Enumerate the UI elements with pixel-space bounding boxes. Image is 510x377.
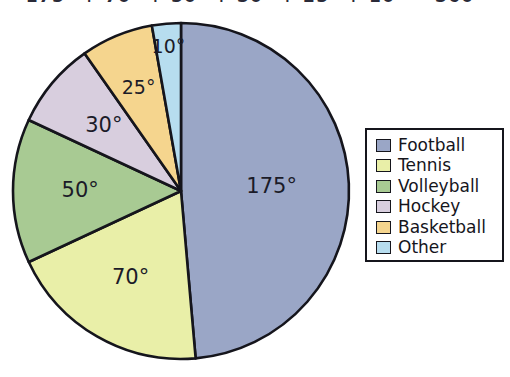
legend-swatch-hockey [376,200,391,213]
pie-slice-value-hockey: 30° [85,113,122,137]
pie-slice-value-other: 10° [152,35,186,57]
legend-item-hockey[interactable]: Hockey [376,197,502,218]
legend-label-football: Football [398,137,465,154]
pie-slice-value-tennis: 70° [112,265,149,289]
legend-swatch-other [376,241,391,254]
legend-item-basketball[interactable]: Basketball [376,217,502,238]
legend-swatch-tennis [376,159,391,172]
legend: FootballTennisVolleyballHockeyBasketball… [365,128,504,262]
pie-slice-value-basketball: 25° [122,76,156,98]
legend-item-volleyball[interactable]: Volleyball [376,176,502,197]
pie-svg: 175°70°50°30°25°10° [0,0,365,377]
legend-item-other[interactable]: Other [376,238,502,259]
legend-swatch-volleyball [376,180,391,193]
legend-label-basketball: Basketball [398,219,486,236]
legend-swatch-basketball [376,221,391,234]
legend-item-football[interactable]: Football [376,135,502,156]
pie-slice-value-football: 175° [246,174,297,198]
legend-label-other: Other [398,239,446,256]
pie-slice-value-volleyball: 50° [62,178,99,202]
legend-label-tennis: Tennis [398,157,451,174]
legend-label-hockey: Hockey [398,198,460,215]
legend-label-volleyball: Volleyball [398,178,479,195]
legend-swatch-football [376,139,391,152]
legend-item-tennis[interactable]: Tennis [376,156,502,177]
pie-chart: 175°70°50°30°25°10° [0,0,365,377]
